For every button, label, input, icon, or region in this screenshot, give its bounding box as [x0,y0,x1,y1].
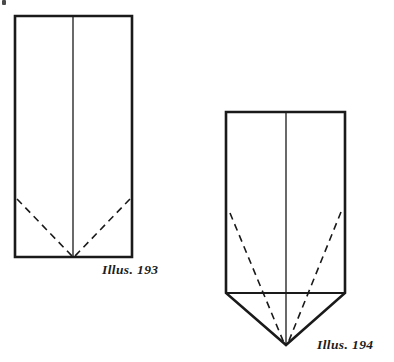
illus-194-left-dashed-fold [230,213,284,343]
caption-illus-193: Illus. 193 [102,262,159,278]
figure-illus-193 [15,16,132,257]
illus-193-left-dashed-fold [17,199,72,256]
figure-illus-194 [226,112,345,345]
illus-193-right-dashed-fold [75,199,130,256]
caption-illus-194: Illus. 194 [317,337,374,353]
illustration-diagram [0,0,394,362]
figure-sheet: Illus. 193 Illus. 194 [0,0,394,362]
illus-194-right-dashed-fold [288,212,341,343]
